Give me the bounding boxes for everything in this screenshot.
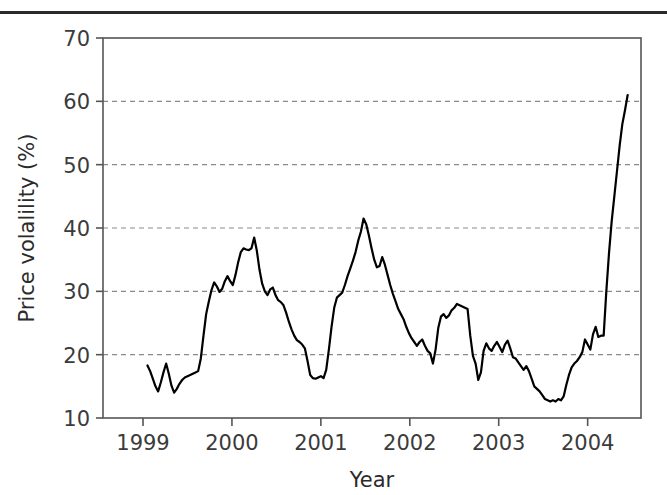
y-tick-label-30: 30 — [63, 280, 90, 304]
gridlines-group — [103, 101, 641, 354]
y-axis-tick-labels-group: 10203040506070 — [63, 27, 90, 431]
x-tick-label-2004: 2004 — [561, 431, 614, 455]
price-volatility-line-chart: 10203040506070 199920002001200220032004 … — [0, 0, 667, 495]
figure-container: 10203040506070 199920002001200220032004 … — [0, 0, 667, 495]
plot-area-frame — [103, 38, 641, 418]
x-axis-ticks-group — [143, 418, 588, 426]
x-tick-label-2000: 2000 — [205, 431, 258, 455]
x-tick-label-2001: 2001 — [294, 431, 347, 455]
x-axis-tick-labels-group: 199920002001200220032004 — [116, 431, 614, 455]
y-axis-ticks-group — [96, 38, 103, 418]
y-axis-title: Price volalility (%) — [15, 134, 39, 323]
volatility-data-line — [147, 95, 627, 402]
x-tick-label-2002: 2002 — [383, 431, 436, 455]
y-tick-label-70: 70 — [63, 27, 90, 51]
y-tick-label-20: 20 — [63, 344, 90, 368]
x-axis-title: Year — [349, 468, 395, 492]
x-tick-label-1999: 1999 — [116, 431, 169, 455]
x-tick-label-2003: 2003 — [472, 431, 525, 455]
y-tick-label-50: 50 — [63, 154, 90, 178]
y-tick-label-40: 40 — [63, 217, 90, 241]
y-tick-label-10: 10 — [63, 407, 90, 431]
y-tick-label-60: 60 — [63, 90, 90, 114]
